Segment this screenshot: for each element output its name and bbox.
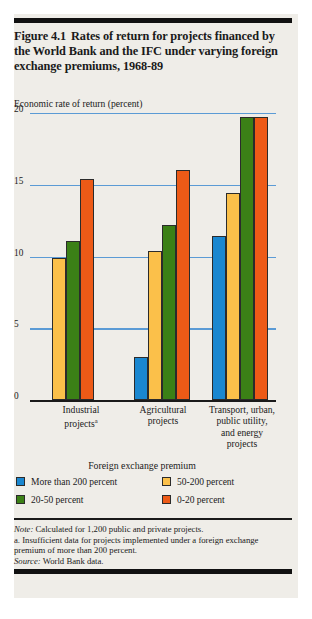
chart-plot-area: 05101520 xyxy=(14,113,276,408)
bar xyxy=(212,236,226,400)
bar xyxy=(134,357,148,400)
legend-label: 20-50 percent xyxy=(31,495,84,505)
category-label: Industrialprojectsa xyxy=(41,404,121,430)
legend-item[interactable]: 0-20 percent xyxy=(162,495,225,505)
bar xyxy=(176,170,190,400)
legend-swatch xyxy=(162,495,171,504)
bar xyxy=(66,241,80,400)
source-line: Source: World Bank data. xyxy=(14,556,284,567)
bar xyxy=(52,258,66,400)
y-tick-20: 20 xyxy=(14,104,23,114)
bar xyxy=(226,193,240,400)
bar xyxy=(240,117,254,400)
bar xyxy=(80,179,94,400)
figure-title-label: Figure 4.1 xyxy=(14,29,66,43)
legend-item[interactable]: More than 200 percent xyxy=(16,477,117,487)
bar-group xyxy=(212,113,268,400)
bar-group xyxy=(134,113,190,400)
note-label: Note: xyxy=(14,524,33,534)
legend-label: More than 200 percent xyxy=(31,477,117,487)
source-text: World Bank data. xyxy=(41,556,104,566)
legend-title: Foreign exchange premium xyxy=(0,460,284,471)
legend-label: 50-200 percent xyxy=(177,477,234,487)
y-tick-0: 0 xyxy=(14,391,19,401)
note-line: Note: Calculated for 1,200 public and pr… xyxy=(14,524,284,535)
bar-group xyxy=(52,113,108,400)
figure-notes: Note: Calculated for 1,200 public and pr… xyxy=(14,524,284,566)
legend-swatch xyxy=(16,477,25,486)
figure-title: Figure 4.1Rates of return for projects f… xyxy=(14,29,282,75)
legend-item[interactable]: 20-50 percent xyxy=(16,495,84,505)
legend-swatch xyxy=(16,495,25,504)
y-tick-10: 10 xyxy=(14,248,23,258)
y-axis-caption: Economic rate of return (percent) xyxy=(14,98,142,109)
x-category-labels: IndustrialprojectsaAgriculturalprojectsT… xyxy=(14,404,276,462)
note-text: Calculated for 1,200 public and private … xyxy=(33,524,203,534)
x-axis-line xyxy=(30,400,276,402)
bar xyxy=(162,225,176,400)
category-label: Agriculturalprojects xyxy=(123,404,203,427)
notes-separator-rule xyxy=(14,518,292,520)
bar xyxy=(254,117,268,400)
source-label: Source: xyxy=(14,556,41,566)
bar-series-container xyxy=(30,113,276,400)
legend-label: 0-20 percent xyxy=(177,495,225,505)
top-rule xyxy=(14,18,292,23)
category-label: Transport, urban,public utility,and ener… xyxy=(196,404,288,450)
legend-swatch xyxy=(162,477,171,486)
bar xyxy=(148,251,162,400)
footnote-a: a. Insufficient data for projects implem… xyxy=(14,535,284,556)
y-tick-5: 5 xyxy=(14,319,19,329)
y-tick-15: 15 xyxy=(14,176,23,186)
legend-item[interactable]: 50-200 percent xyxy=(162,477,234,487)
bottom-rule xyxy=(14,569,292,574)
